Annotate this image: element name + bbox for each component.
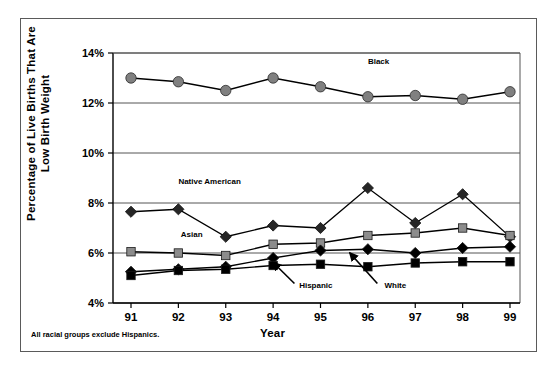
series-label-black: Black	[368, 57, 390, 66]
y-tick-label: 12%	[82, 97, 104, 109]
x-tick-label: 91	[125, 311, 138, 323]
marker-white	[316, 260, 324, 268]
marker-asian	[174, 249, 182, 257]
marker-hispanic	[410, 247, 421, 258]
marker-white	[458, 258, 466, 266]
marker-white	[411, 259, 419, 267]
marker-black	[268, 73, 278, 83]
marker-asian	[269, 240, 277, 248]
y-tick-label: 4%	[88, 297, 104, 309]
figure-container: Percentage of Live Births That Are Low B…	[0, 0, 558, 370]
marker-white	[222, 265, 230, 273]
series-label-hispanic: Hispanic	[299, 281, 333, 290]
x-tick-label: 93	[219, 311, 232, 323]
marker-asian	[458, 224, 466, 232]
marker-black	[315, 82, 325, 92]
marker-black	[173, 77, 183, 87]
marker-black	[221, 85, 231, 95]
x-tick-label: 95	[314, 311, 327, 323]
x-tick-label: 92	[172, 311, 185, 323]
marker-native-american	[125, 206, 136, 217]
y-tick-label: 14%	[82, 47, 104, 59]
marker-black	[457, 94, 467, 104]
y-tick-label: 8%	[88, 197, 104, 209]
line-chart: 4%6%8%10%12%14%919293949596979899BlackNa…	[0, 0, 558, 370]
marker-hispanic	[504, 241, 515, 252]
marker-hispanic	[457, 242, 468, 253]
marker-asian	[222, 251, 230, 259]
marker-native-american	[220, 231, 231, 242]
marker-native-american	[173, 204, 184, 215]
x-tick-label: 97	[409, 311, 422, 323]
marker-white	[506, 258, 514, 266]
marker-native-american	[268, 220, 279, 231]
y-tick-label: 6%	[88, 247, 104, 259]
marker-black	[363, 92, 373, 102]
x-tick-label: 94	[267, 311, 280, 323]
marker-native-american	[410, 217, 421, 228]
white-arrow	[350, 253, 377, 284]
marker-asian	[506, 231, 514, 239]
x-tick-label: 99	[504, 311, 517, 323]
marker-black	[126, 73, 136, 83]
series-label-asian: Asian	[181, 230, 203, 239]
marker-asian	[127, 248, 135, 256]
marker-asian	[364, 231, 372, 239]
x-tick-label: 98	[456, 311, 469, 323]
marker-white	[174, 266, 182, 274]
series-label-white: White	[384, 281, 406, 290]
marker-black	[410, 90, 420, 100]
marker-white	[127, 271, 135, 279]
y-tick-label: 10%	[82, 147, 104, 159]
series-label-native-american: Native American	[178, 177, 241, 186]
marker-asian	[411, 229, 419, 237]
x-tick-label: 96	[361, 311, 374, 323]
marker-black	[505, 87, 515, 97]
